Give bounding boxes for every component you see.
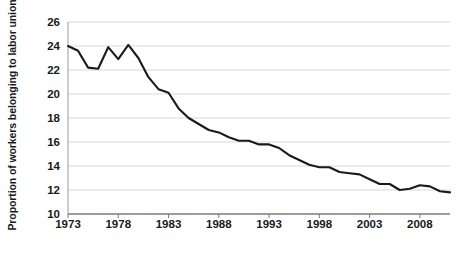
plot-area: [0, 0, 464, 262]
line-chart: Proportion of workers belonging to labor…: [0, 0, 464, 262]
data-series-line: [68, 45, 450, 193]
x-tick-marks: [68, 214, 420, 218]
